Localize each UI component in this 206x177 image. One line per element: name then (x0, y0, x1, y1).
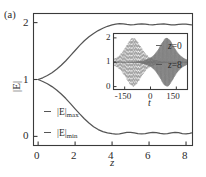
legend-line-e-max (44, 111, 51, 112)
inset-x-tick-label: -150 (115, 92, 132, 101)
x-tick-label: 0 (34, 150, 40, 161)
inset-legend-item-z8: z=8 (156, 54, 182, 72)
main-legend: |E|max |E|min (44, 101, 79, 140)
x-axis-label: z (110, 157, 114, 168)
inset-y-tick-label: 2 (106, 33, 111, 42)
inset-legend: z=0 z=8 (156, 35, 182, 72)
inset-legend-z8-value: 8 (177, 60, 182, 70)
legend-label-e-max-base: |E| (57, 107, 67, 117)
legend-item-e-max: |E|max (44, 101, 79, 119)
x-tick-label: 8 (182, 150, 188, 161)
legend-label-e-min-base: |E| (57, 128, 67, 138)
inset-legend-item-z0: z=0 (156, 35, 182, 53)
y-axis-ticks (34, 23, 38, 137)
inset-legend-label-z0: z=0 (168, 41, 182, 51)
x-tick-label: 6 (145, 150, 151, 161)
legend-line-e-min (44, 132, 51, 133)
inset-legend-label-z8: z=8 (168, 60, 182, 70)
legend-label-e-min: |E|min (57, 128, 78, 138)
inset-y-tick-label: 0 (106, 82, 111, 91)
inset-legend-line-z8 (156, 64, 162, 65)
legend-label-e-max: |E|max (57, 107, 79, 117)
legend-item-e-min: |E|min (44, 122, 79, 140)
y-tick-label: 0 (23, 130, 29, 141)
inset-legend-z0-value: 0 (177, 41, 182, 51)
y-tick-label: 1 (23, 74, 29, 85)
y-tick-label: 2 (23, 17, 29, 28)
figure-panel-a: (a) |E| 02468 012 (0, 0, 206, 177)
legend-label-e-max-sub: max (67, 111, 79, 119)
x-tick-label: 2 (71, 150, 77, 161)
plot-canvas (0, 0, 206, 177)
legend-label-e-min-sub: min (67, 132, 78, 140)
x-axis-ticks (38, 142, 186, 146)
inset-legend-line-z0 (156, 45, 162, 46)
inset-x-axis-label: t (148, 98, 151, 108)
inset-y-tick-label: 1 (106, 57, 111, 66)
inset-x-tick-label: 150 (166, 92, 180, 101)
